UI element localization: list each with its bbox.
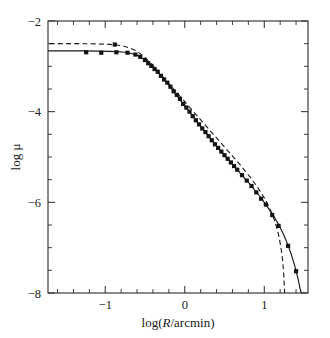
- data-point: [294, 269, 298, 273]
- data-point: [125, 51, 129, 55]
- data-point: [200, 126, 204, 130]
- data-point: [259, 197, 263, 201]
- data-point: [184, 105, 188, 109]
- data-point: [159, 74, 163, 78]
- data-point: [249, 184, 253, 188]
- axis-frame: [48, 21, 308, 293]
- data-point: [165, 81, 169, 85]
- data-point: [245, 178, 249, 182]
- y-axis-major-ticks: [48, 21, 308, 293]
- data-point: [286, 244, 290, 248]
- curve-solid-model: [48, 51, 301, 293]
- x-axis-major-ticks: [105, 21, 264, 293]
- data-point: [84, 50, 88, 54]
- data-point: [114, 50, 118, 54]
- data-point: [203, 130, 207, 134]
- x-axis-label: log(R/arcmin): [142, 315, 215, 330]
- y-axis-tick-labels: −2−4−6−8: [28, 15, 42, 301]
- data-points: [84, 42, 298, 273]
- data-point: [235, 168, 239, 172]
- data-point: [191, 114, 195, 118]
- data-point: [113, 42, 117, 46]
- data-point: [226, 157, 230, 161]
- data-point: [168, 85, 172, 89]
- plot-frame: [48, 21, 308, 293]
- y-axis-minor-ticks: [48, 44, 308, 271]
- data-point: [138, 55, 142, 59]
- y-tick-label: −8: [28, 287, 41, 301]
- y-axis-label-text: log μ: [8, 144, 23, 171]
- data-point: [194, 118, 198, 122]
- data-point: [222, 153, 226, 157]
- data-point: [99, 51, 103, 55]
- x-tick-label: 1: [261, 298, 267, 312]
- y-tick-label: −6: [28, 196, 41, 210]
- surface-brightness-profile-chart: −101 −2−4−6−8 log(R/arcmin) log μ: [0, 0, 330, 338]
- y-axis-label: log μ: [8, 144, 23, 171]
- y-tick-label: −4: [28, 105, 42, 119]
- data-point: [210, 138, 214, 142]
- data-point: [172, 89, 176, 93]
- data-point: [276, 224, 280, 228]
- x-tick-label: 0: [182, 298, 188, 312]
- data-point: [264, 203, 268, 207]
- data-point: [232, 164, 236, 168]
- data-point: [156, 70, 160, 74]
- figure-panel: −101 −2−4−6−8 log(R/arcmin) log μ: [0, 0, 330, 338]
- x-tick-label: −1: [99, 298, 112, 312]
- x-axis-minor-ticks: [58, 21, 297, 293]
- data-point: [197, 122, 201, 126]
- data-point: [181, 102, 185, 106]
- data-point: [213, 142, 217, 146]
- data-point: [133, 52, 137, 56]
- data-point: [240, 173, 244, 177]
- x-axis-label-text: log(R/arcmin): [142, 315, 215, 330]
- data-point: [178, 97, 182, 101]
- data-point: [175, 93, 179, 97]
- data-point: [207, 134, 211, 138]
- data-point: [270, 213, 274, 217]
- x-axis-tick-labels: −101: [99, 298, 268, 312]
- y-tick-label: −2: [28, 15, 41, 29]
- model-curves: [48, 44, 301, 293]
- data-point: [187, 110, 191, 114]
- data-point: [219, 149, 223, 153]
- data-point: [216, 146, 220, 150]
- data-point: [254, 190, 258, 194]
- data-point: [229, 160, 233, 164]
